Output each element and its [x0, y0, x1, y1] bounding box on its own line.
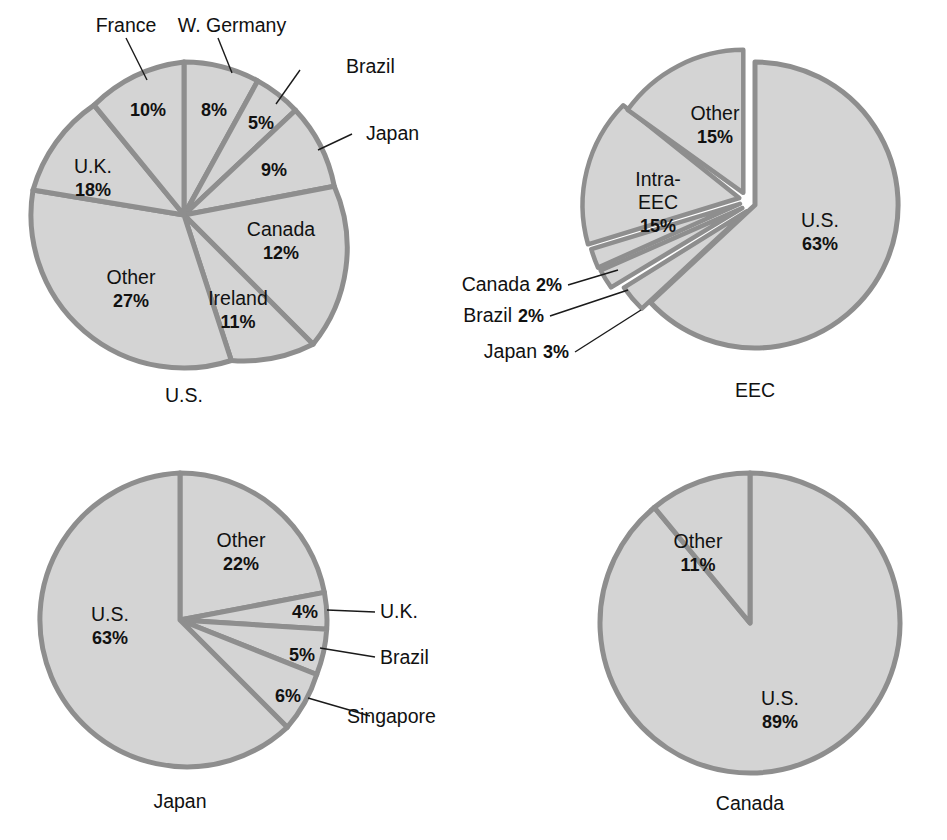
label-japan-brazil: Brazil	[380, 646, 429, 668]
pie-panel-japan: U.K. Brazil Singapore Other 22% U.S. 63%…	[0, 420, 470, 840]
value-japan-uk: 4%	[292, 602, 318, 622]
label-brazil: Brazil	[346, 55, 395, 77]
label-eec-us: U.S.	[801, 209, 839, 231]
value-eec-other: 15%	[697, 127, 733, 147]
pie-chart-eec-svg: Canada2% Brazil2% Japan3% Other 15% Intr…	[470, 0, 947, 420]
label-eec-brazil: Brazil2%	[463, 304, 544, 326]
label-japan-singapore: Singapore	[347, 705, 436, 727]
label-ireland: Ireland	[208, 287, 268, 309]
value-japan-singapore: 6%	[275, 686, 301, 706]
pie-chart-canada-svg: Other 11% U.S. 89% Canada	[470, 420, 947, 840]
pie-panel-eec: Canada2% Brazil2% Japan3% Other 15% Intr…	[470, 0, 947, 420]
value-eec-us: 63%	[802, 234, 838, 254]
value-canada-other: 11%	[680, 555, 715, 575]
panel-title-eec: EEC	[735, 379, 775, 401]
label-eec-intra-line1: Intra-	[635, 168, 681, 190]
label-uk: U.K.	[74, 155, 112, 177]
pie-panel-us: France W. Germany Brazil Japan 10% 8% 5%…	[0, 0, 470, 420]
value-w-germany: 8%	[201, 100, 227, 120]
value-canada-us: 89%	[762, 712, 798, 732]
value-canada: 12%	[263, 243, 299, 263]
label-eec-other: Other	[691, 102, 740, 124]
leader-brazil	[276, 70, 300, 104]
pie-chart-us-svg: France W. Germany Brazil Japan 10% 8% 5%…	[0, 0, 470, 420]
label-japan-other: Other	[217, 529, 266, 551]
label-w-germany: W. Germany	[178, 14, 287, 36]
value-ireland: 11%	[220, 312, 255, 332]
label-japan: Japan	[366, 122, 419, 144]
value-japan-brazil: 5%	[289, 645, 315, 665]
value-eec-intra: 15%	[640, 216, 676, 236]
value-japan-other: 22%	[223, 554, 259, 574]
pie-chart-japan-svg: U.K. Brazil Singapore Other 22% U.S. 63%…	[0, 420, 470, 840]
value-japan: 9%	[261, 160, 287, 180]
label-eec-japan: Japan3%	[484, 340, 569, 362]
leader-japan-uk	[327, 610, 375, 612]
value-japan-us: 63%	[92, 628, 128, 648]
value-france: 10%	[130, 100, 166, 120]
label-canada-us: U.S.	[761, 687, 799, 709]
label-canada: Canada	[247, 218, 315, 240]
leader-eec-japan	[575, 310, 641, 352]
value-other: 27%	[113, 291, 149, 311]
panel-title-canada: Canada	[716, 792, 784, 814]
value-uk: 18%	[75, 180, 111, 200]
label-japan-us: U.S.	[91, 603, 129, 625]
label-other: Other	[107, 266, 156, 288]
label-japan-uk: U.K.	[380, 600, 418, 622]
pie-panel-canada: Other 11% U.S. 89% Canada	[470, 420, 947, 840]
panel-title-us: U.S.	[165, 384, 203, 406]
four-pie-chart-figure: France W. Germany Brazil Japan 10% 8% 5%…	[0, 0, 947, 840]
label-france: France	[96, 14, 157, 36]
leader-japan	[318, 134, 352, 150]
label-eec-intra-line2: EEC	[638, 191, 678, 213]
label-canada-other: Other	[674, 530, 723, 552]
value-brazil: 5%	[248, 113, 274, 133]
label-eec-canada: Canada2%	[462, 273, 562, 295]
leader-japan-brazil	[320, 648, 375, 657]
panel-title-japan: Japan	[153, 790, 206, 812]
